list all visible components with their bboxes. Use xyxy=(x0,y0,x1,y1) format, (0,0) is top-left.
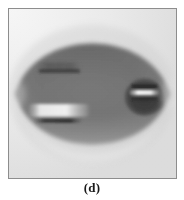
grayscale-image xyxy=(9,9,176,178)
lower-left-bright-band xyxy=(29,104,90,117)
lower-left-dark-line xyxy=(35,119,82,123)
figure-caption: (d) xyxy=(0,180,184,196)
upper-left-streak xyxy=(36,62,81,72)
right-inclusion-band xyxy=(130,85,160,101)
figure-container: (d) xyxy=(0,0,184,200)
right-inclusion xyxy=(125,78,165,116)
figure-image-panel xyxy=(8,8,177,179)
